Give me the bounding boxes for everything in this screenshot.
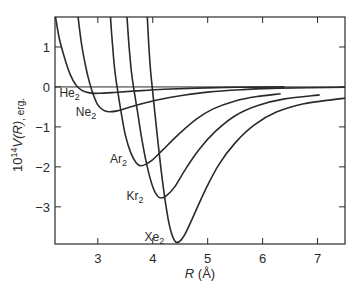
axis-ticks: 3456710−1−2−3: [35, 17, 345, 266]
x-tick-label: 4: [149, 251, 156, 266]
label-xe2: Xe2: [145, 230, 165, 246]
plot-frame: [55, 17, 345, 244]
x-tick-label: 7: [314, 251, 321, 266]
curve-xe2: [147, 17, 345, 242]
curves: [56, 17, 346, 242]
y-tick-label: −1: [35, 120, 50, 135]
label-kr2: Kr2: [126, 189, 143, 205]
x-tick-label: 3: [94, 251, 101, 266]
label-he2: He2: [59, 86, 79, 102]
x-tick-label: 5: [204, 251, 211, 266]
y-tick-label: −2: [35, 160, 50, 175]
potential-energy-chart: 3456710−1−2−3 He2Ne2Ar2Kr2Xe2 R (Å) 1014…: [0, 0, 358, 292]
plot-border: [55, 17, 345, 244]
y-axis-title: 1014V(R), erg.: [9, 98, 26, 172]
series-labels: He2Ne2Ar2Kr2Xe2: [59, 86, 164, 246]
x-tick-label: 6: [259, 251, 266, 266]
label-ar2: Ar2: [110, 152, 127, 168]
x-axis-title: R (Å): [185, 266, 215, 281]
label-ne2: Ne2: [76, 105, 96, 121]
y-tick-label: 0: [43, 80, 50, 95]
y-tick-label: 1: [43, 40, 50, 55]
y-tick-label: −3: [35, 200, 50, 215]
